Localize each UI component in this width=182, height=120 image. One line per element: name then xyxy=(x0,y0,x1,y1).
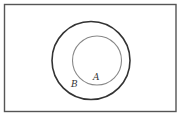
universal-set-rectangle xyxy=(5,5,177,112)
set-b-label: B xyxy=(70,79,78,89)
venn-diagram: B A xyxy=(0,0,182,120)
set-a-label: A xyxy=(92,72,100,82)
set-b-circle xyxy=(52,22,130,100)
